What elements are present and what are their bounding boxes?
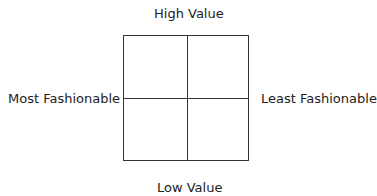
horizontal-divider — [124, 98, 248, 99]
quadrant-matrix — [123, 35, 249, 161]
label-top: High Value — [154, 6, 224, 22]
label-bottom: Low Value — [157, 180, 222, 196]
label-left: Most Fashionable — [8, 91, 120, 107]
label-right: Least Fashionable — [261, 91, 377, 107]
